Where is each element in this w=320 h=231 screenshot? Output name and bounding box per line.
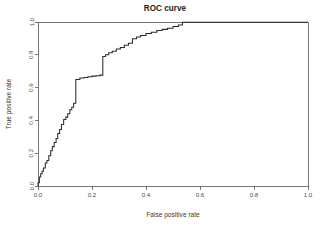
- x-tick-label: 0.2: [88, 191, 97, 198]
- y-tick-label: 0.6: [28, 83, 35, 92]
- x-tick-label: 0.6: [196, 191, 205, 198]
- chart-title: ROC curve: [144, 4, 187, 13]
- plot-frame: [38, 22, 308, 186]
- plot-canvas: ROC curve 0.00.20.40.60.81.0 0.00.20.40.…: [0, 0, 320, 231]
- x-tick-label: 0.4: [142, 191, 151, 198]
- x-tick-label: 0.0: [34, 191, 43, 198]
- x-tick-label: 0.8: [250, 191, 259, 198]
- plot-box-border: [38, 22, 308, 186]
- roc-curve-plot-figure: ROC curve 0.00.20.40.60.81.0 0.00.20.40.…: [0, 0, 320, 231]
- y-axis-label: True positive rate: [5, 78, 13, 129]
- y-tick-label: 1.0: [28, 17, 35, 26]
- x-axis-ticks: 0.00.20.40.60.81.0: [34, 186, 313, 198]
- y-tick-label: 0.0: [28, 181, 35, 190]
- y-axis-ticks: 0.00.20.40.60.81.0: [28, 17, 39, 190]
- x-tick-label: 1.0: [304, 191, 313, 198]
- roc-curve-line: [38, 22, 308, 186]
- x-axis-label: False positive rate: [146, 211, 200, 219]
- y-tick-label: 0.2: [28, 148, 35, 157]
- y-tick-label: 0.4: [28, 116, 35, 125]
- y-tick-label: 0.8: [28, 50, 35, 59]
